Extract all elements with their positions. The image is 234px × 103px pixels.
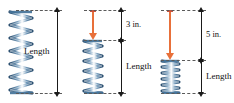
panel-spring-compressed-5in: 5 in. Length <box>156 0 234 103</box>
length-label-3in: Length <box>126 61 152 71</box>
panel-spring-compressed-3in: 3 in. Length <box>78 0 156 103</box>
force-arrow-3in <box>92 10 94 34</box>
compression-dimension-arrow-3in <box>121 11 122 40</box>
panel-free-spring: Length <box>0 0 78 103</box>
length-label-free: Length <box>24 46 50 56</box>
compression-dimension-arrow-5in <box>201 11 202 60</box>
force-arrow-5in <box>169 10 171 54</box>
compression-label-5in: 5 in. <box>206 29 221 39</box>
spring-coil-compressed-5in <box>158 59 184 94</box>
spring-compression-figure: Length <box>0 0 234 103</box>
length-dimension-arrow-free <box>57 11 58 93</box>
spring-coil-compressed-3in <box>80 39 108 94</box>
length-dimension-arrow-3in <box>121 41 122 93</box>
length-dimension-arrow-5in <box>201 61 202 93</box>
compression-label-3in: 3 in. <box>126 19 141 29</box>
length-label-5in: Length <box>206 71 232 81</box>
